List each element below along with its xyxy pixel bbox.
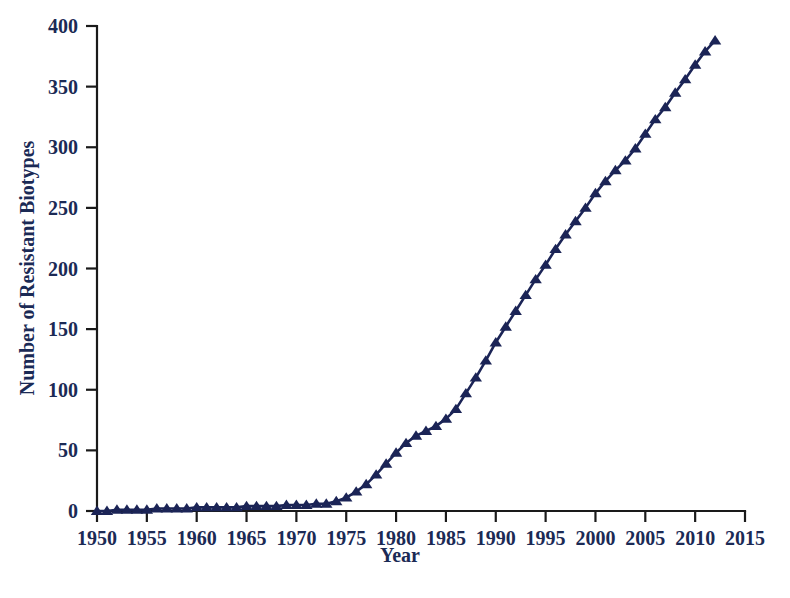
y-tick-label: 50 [58,439,78,461]
y-axis-title: Number of Resistant Biotypes [16,140,39,395]
series-data-point [460,388,472,397]
series-data-point [500,321,512,330]
x-tick-label: 1985 [426,527,466,549]
x-tick-label: 2015 [725,527,765,549]
x-axis-ticks [97,511,745,522]
series-data-point [450,404,462,413]
y-tick-label: 0 [68,500,78,522]
y-tick-label: 150 [48,318,78,340]
plot-series-group [91,35,721,515]
x-tick-label: 1990 [476,527,516,549]
x-tick-label: 1970 [276,527,316,549]
y-axis-ticks [86,26,97,511]
y-tick-label: 200 [48,258,78,280]
x-axis-title: Year [380,544,420,566]
x-tick-label: 1995 [526,527,566,549]
x-tick-label: 1960 [177,527,217,549]
series-data-point [539,259,551,268]
x-tick-label: 1975 [326,527,366,549]
x-axis-tick-labels: 1950195519601965197019751980198519901995… [77,527,765,549]
series-data-point [490,337,502,346]
series-data-point [470,372,482,381]
x-tick-label: 1955 [127,527,167,549]
series-data-point [480,355,492,364]
chart-figure: 050100150200250300350400 195019551960196… [0,0,790,598]
resistant-biotypes-line-chart: 050100150200250300350400 195019551960196… [0,0,790,598]
y-axis-tick-labels: 050100150200250300350400 [48,15,78,522]
x-tick-label: 2010 [675,527,715,549]
y-tick-label: 400 [48,15,78,37]
series-data-point [519,290,531,299]
partial-caption-text [0,582,790,596]
series-data-point [709,35,721,44]
y-tick-label: 250 [48,197,78,219]
x-tick-label: 2000 [575,527,615,549]
y-tick-label: 300 [48,136,78,158]
x-axis-group: 1950195519601965197019751980198519901995… [77,511,765,549]
y-tick-label: 100 [48,379,78,401]
series-data-point [510,305,522,314]
x-tick-label: 1965 [227,527,267,549]
y-axis-group: 050100150200250300350400 [48,15,97,522]
y-tick-label: 350 [48,76,78,98]
series-markers-resistant-biotypes [91,35,721,515]
x-tick-label: 2005 [625,527,665,549]
x-tick-label: 1950 [77,527,117,549]
